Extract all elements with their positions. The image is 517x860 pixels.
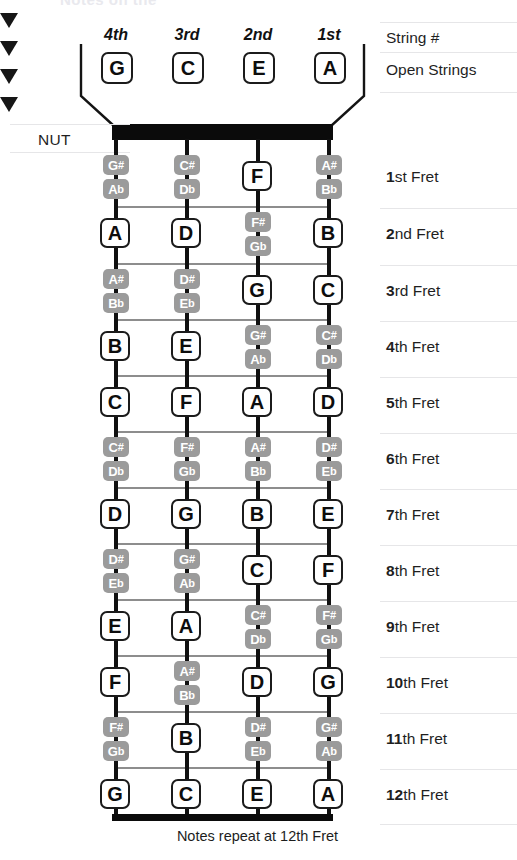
fret-note-natural[interactable]: D bbox=[313, 387, 343, 417]
fret-note-natural[interactable]: E bbox=[313, 499, 343, 529]
string-ordinal-1st: 1st bbox=[303, 26, 355, 44]
fret-note-natural[interactable]: A bbox=[242, 387, 272, 417]
fret-suffix: th Fret bbox=[395, 618, 440, 635]
fret-note-sharp[interactable]: G# bbox=[103, 155, 129, 175]
fret-note-natural[interactable]: B bbox=[313, 218, 343, 248]
fret-note-flat[interactable]: Db bbox=[245, 629, 271, 649]
fret-note-flat[interactable]: Gb bbox=[245, 236, 271, 256]
fret-note-natural[interactable]: G bbox=[242, 275, 272, 305]
fret-note-sharp[interactable]: D# bbox=[316, 437, 342, 457]
fret-note-natural[interactable]: C bbox=[171, 779, 201, 809]
fret-note-natural[interactable]: B bbox=[171, 723, 201, 753]
fret-note-sharp[interactable]: F# bbox=[245, 212, 271, 232]
fret-label-10: 10th Fret bbox=[386, 675, 448, 691]
string-ordinal-4th: 4th bbox=[90, 26, 142, 44]
fret-note-natural[interactable]: F bbox=[242, 161, 272, 191]
fret-note-natural[interactable]: F bbox=[100, 667, 130, 697]
fret-label-5: 5th Fret bbox=[386, 395, 439, 411]
fret-note-natural[interactable]: C bbox=[100, 387, 130, 417]
fret-note-natural[interactable]: A bbox=[100, 218, 130, 248]
fret-note-flat[interactable]: Gb bbox=[316, 629, 342, 649]
fret-note-flat[interactable]: Ab bbox=[316, 741, 342, 761]
fret-note-flat[interactable]: Ab bbox=[245, 349, 271, 369]
fret-note-natural[interactable]: B bbox=[100, 331, 130, 361]
fret-wire-4 bbox=[116, 375, 329, 377]
separator-rule bbox=[380, 657, 517, 658]
fret-label-12: 12th Fret bbox=[386, 787, 448, 803]
fret-suffix: nd Fret bbox=[395, 225, 444, 242]
fret-note-sharp[interactable]: C# bbox=[174, 155, 200, 175]
fret-note-sharp[interactable]: F# bbox=[174, 437, 200, 457]
fret-note-flat[interactable]: Ab bbox=[103, 179, 129, 199]
fret-number: 9 bbox=[386, 618, 395, 635]
fret-note-natural[interactable]: G bbox=[171, 499, 201, 529]
nut-bar bbox=[112, 124, 333, 140]
fret-suffix: th Fret bbox=[395, 450, 440, 467]
fret-note-flat[interactable]: Db bbox=[174, 179, 200, 199]
fret-note-flat[interactable]: Bb bbox=[316, 179, 342, 199]
fret-note-flat[interactable]: Bb bbox=[245, 461, 271, 481]
fret-note-sharp[interactable]: G# bbox=[174, 549, 200, 569]
fret-note-sharp[interactable]: D# bbox=[174, 269, 200, 289]
fret-note-natural[interactable]: D bbox=[171, 218, 201, 248]
fret-note-sharp[interactable]: A# bbox=[103, 269, 129, 289]
open-string-note-4th[interactable]: G bbox=[101, 52, 133, 84]
fret-note-flat[interactable]: Db bbox=[316, 349, 342, 369]
fret-note-natural[interactable]: D bbox=[242, 667, 272, 697]
fret-label-11: 11th Fret bbox=[386, 731, 447, 747]
fret-note-natural[interactable]: G bbox=[313, 667, 343, 697]
fret-note-sharp[interactable]: D# bbox=[245, 717, 271, 737]
open-strings-label: Open Strings bbox=[386, 62, 476, 78]
fret-label-7: 7th Fret bbox=[386, 507, 439, 523]
fret-note-natural[interactable]: F bbox=[313, 555, 343, 585]
fret-note-flat[interactable]: Eb bbox=[174, 293, 200, 313]
fret-note-flat[interactable]: Gb bbox=[103, 741, 129, 761]
fret-note-flat[interactable]: Db bbox=[103, 461, 129, 481]
fret-note-flat[interactable]: Bb bbox=[174, 685, 200, 705]
fret-suffix: th Fret bbox=[395, 506, 440, 523]
fret-note-sharp[interactable]: A# bbox=[316, 155, 342, 175]
fret-wire-5 bbox=[116, 431, 329, 433]
fret-note-natural[interactable]: B bbox=[242, 499, 272, 529]
open-string-note-2nd[interactable]: E bbox=[243, 52, 275, 84]
fret-note-flat[interactable]: Eb bbox=[103, 573, 129, 593]
fret-note-natural[interactable]: G bbox=[100, 779, 130, 809]
fret-note-natural[interactable]: A bbox=[171, 611, 201, 641]
separator-rule bbox=[380, 433, 517, 434]
fret-suffix: th Fret bbox=[403, 674, 448, 691]
fret-label-4: 4th Fret bbox=[386, 339, 439, 355]
fret-wire-7 bbox=[116, 543, 329, 545]
fret-note-natural[interactable]: F bbox=[171, 387, 201, 417]
fret-note-natural[interactable]: E bbox=[171, 331, 201, 361]
fret-note-flat[interactable]: Ab bbox=[174, 573, 200, 593]
fret-note-flat[interactable]: Eb bbox=[316, 461, 342, 481]
fret-note-sharp[interactable]: A# bbox=[245, 437, 271, 457]
separator-rule bbox=[380, 208, 517, 209]
fret-wire-8 bbox=[116, 599, 329, 601]
fret-note-flat[interactable]: Gb bbox=[174, 461, 200, 481]
open-string-note-1st[interactable]: A bbox=[314, 52, 346, 84]
fret-number: 4 bbox=[386, 338, 395, 355]
fret-note-natural[interactable]: D bbox=[100, 499, 130, 529]
fret-note-sharp[interactable]: G# bbox=[316, 717, 342, 737]
fret-note-flat[interactable]: Bb bbox=[103, 293, 129, 313]
fret-note-natural[interactable]: E bbox=[242, 779, 272, 809]
fret-wire-1 bbox=[116, 206, 329, 208]
fret-note-sharp[interactable]: C# bbox=[103, 437, 129, 457]
fret-note-natural[interactable]: E bbox=[100, 611, 130, 641]
fret-note-sharp[interactable]: G# bbox=[245, 325, 271, 345]
diagram-layer: 4thG3rdC2ndE1stAG#AbC#DbFA#BbADF#GbBA#Bb… bbox=[0, 0, 517, 112]
fret-note-sharp[interactable]: C# bbox=[245, 605, 271, 625]
fret-note-sharp[interactable]: A# bbox=[174, 661, 200, 681]
fret-suffix: th Fret bbox=[402, 730, 447, 747]
fret-note-sharp[interactable]: F# bbox=[103, 717, 129, 737]
fret-note-natural[interactable]: C bbox=[313, 275, 343, 305]
fret-note-sharp[interactable]: F# bbox=[316, 605, 342, 625]
fret-note-sharp[interactable]: D# bbox=[103, 549, 129, 569]
fret-note-flat[interactable]: Eb bbox=[245, 741, 271, 761]
fret-note-natural[interactable]: A bbox=[313, 779, 343, 809]
fret-wire-11 bbox=[116, 767, 329, 769]
open-string-note-3rd[interactable]: C bbox=[172, 52, 204, 84]
fret-note-sharp[interactable]: C# bbox=[316, 325, 342, 345]
fret-note-natural[interactable]: C bbox=[242, 555, 272, 585]
